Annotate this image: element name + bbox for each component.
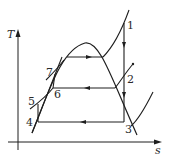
arrow-right-icon	[86, 55, 92, 59]
isobar-low	[131, 92, 153, 126]
state-label-1: 1	[127, 19, 134, 32]
s-axis-label: s	[155, 144, 161, 157]
state-label-7: 7	[46, 66, 53, 79]
state-label-5: 5	[28, 95, 35, 108]
arrow-left-icon	[84, 86, 90, 90]
state-label-3: 3	[125, 123, 132, 136]
arrow-left-icon	[80, 120, 86, 124]
arrow-down-icon	[122, 92, 126, 98]
state-label-6: 6	[54, 88, 61, 101]
state-label-2: 2	[127, 73, 134, 86]
ts-diagram: T s 1 2 3 4 5 6 7	[0, 0, 172, 157]
axes	[8, 29, 162, 150]
isobar-high	[103, 10, 129, 57]
t-axis-arrow-icon	[16, 29, 21, 37]
state-label-4: 4	[26, 116, 33, 129]
t-axis-label: T	[7, 28, 16, 41]
isobar-mid-end-dot	[132, 63, 134, 65]
arrow-down-icon	[122, 42, 126, 48]
